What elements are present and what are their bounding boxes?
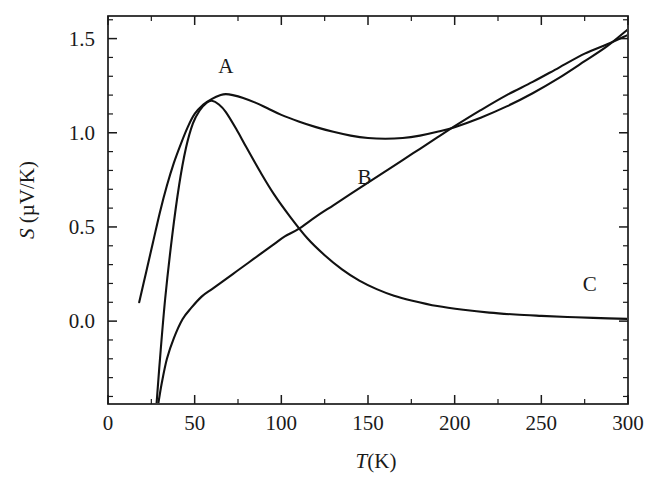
x-axis-tick-labels: 050100150200250300 (103, 411, 644, 435)
y-axis-title: S (µV/K) (15, 161, 39, 239)
curve-label-c: C (583, 272, 597, 296)
x-tick-label: 50 (184, 411, 205, 435)
data-curves (139, 29, 628, 404)
y-tick-label: 0.0 (69, 309, 95, 333)
data-curve-c (157, 101, 628, 404)
x-tick-label: 250 (526, 411, 558, 435)
y-tick-label: 1.5 (69, 27, 95, 51)
x-tick-label: 100 (266, 411, 298, 435)
y-axis-tick-labels: 0.00.51.01.5 (69, 27, 95, 334)
curves-clip-group (139, 29, 628, 404)
curve-label-b: B (358, 165, 372, 189)
x-tick-label: 150 (352, 411, 384, 435)
x-tick-label: 0 (103, 411, 114, 435)
x-tick-label: 300 (612, 411, 644, 435)
line-chart: 050100150200250300 0.00.51.01.5 ABC T(K)… (0, 0, 658, 493)
x-tick-label: 200 (439, 411, 471, 435)
y-tick-label: 1.0 (69, 121, 95, 145)
axis-frame-box (108, 16, 628, 404)
data-curve-b (158, 35, 628, 404)
axis-ticks (108, 16, 628, 404)
y-tick-label: 0.5 (69, 215, 95, 239)
curve-label-a: A (218, 54, 234, 78)
figure-container: 050100150200250300 0.00.51.01.5 ABC T(K)… (0, 0, 658, 493)
plot-frame (108, 16, 628, 404)
x-axis-title: T(K) (356, 449, 397, 473)
